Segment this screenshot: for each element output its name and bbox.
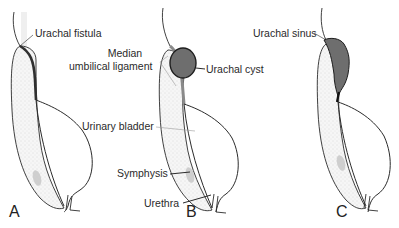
urachal-cyst-shape — [170, 48, 196, 78]
urethra-b — [212, 194, 226, 213]
label-urethra: Urethra — [144, 198, 179, 209]
label-urinary-bladder: Urinary bladder — [82, 121, 154, 132]
label-urachal-fistula: Urachal fistula — [35, 28, 102, 39]
label-urachal-sinus: Urachal sinus — [253, 28, 317, 39]
label-median-line2: umbilical ligament — [69, 61, 152, 72]
panel-letter-c: C — [336, 204, 348, 220]
panel-a — [11, 12, 92, 212]
panel-letter-a: A — [9, 204, 20, 220]
abdominal-wall-upper-c — [321, 8, 326, 40]
label-urachal-cyst: Urachal cyst — [206, 64, 264, 75]
label-symphysis: Symphysis — [117, 168, 168, 179]
abdominal-wall-upper-a — [13, 12, 20, 46]
panel-b — [156, 8, 238, 213]
abdominal-wall-upper-b — [162, 8, 170, 46]
panel-c — [314, 8, 390, 212]
label-median-line1: Median — [96, 48, 154, 59]
leader-urachal-cyst — [196, 68, 205, 69]
urethra-a — [66, 195, 80, 211]
panel-letter-b: B — [186, 204, 197, 220]
